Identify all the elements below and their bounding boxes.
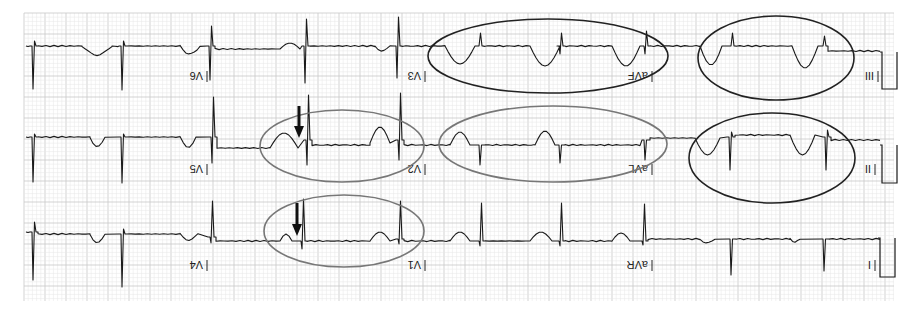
svg-text:aVR: aVR bbox=[627, 259, 648, 271]
ecg-chart: V6V3aVFIIIV5V2aVLIIV4V1aVRI bbox=[0, 0, 922, 313]
svg-text:V2: V2 bbox=[408, 163, 421, 175]
svg-text:II: II bbox=[865, 163, 871, 175]
lead-label-avr: aVR bbox=[627, 259, 652, 271]
svg-text:V6: V6 bbox=[190, 70, 203, 82]
ecg-grid-paper bbox=[24, 13, 894, 301]
svg-text:III: III bbox=[865, 70, 874, 82]
svg-text:I: I bbox=[868, 259, 871, 271]
ecg-figure: V6V3aVFIIIV5V2aVLIIV4V1aVRI bbox=[0, 0, 922, 313]
svg-text:V4: V4 bbox=[190, 259, 203, 271]
svg-text:V1: V1 bbox=[408, 259, 421, 271]
svg-text:V3: V3 bbox=[408, 70, 421, 82]
svg-text:V5: V5 bbox=[190, 163, 203, 175]
